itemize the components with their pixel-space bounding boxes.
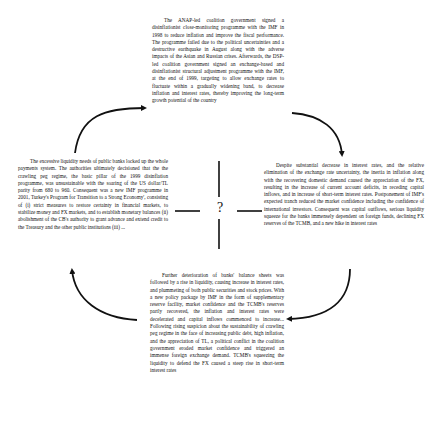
text-block-bottom-paragraph: Further deterioration of banks' balance … bbox=[150, 272, 284, 374]
arrow-top-to-right bbox=[292, 113, 342, 155]
text-block-top: The ANAP-led coalition government signed… bbox=[152, 17, 284, 105]
arrow-left-to-top bbox=[75, 108, 145, 153]
arrow-right-to-bottom bbox=[288, 269, 350, 319]
text-block-right: Despite substantial decrease in interest… bbox=[264, 162, 424, 228]
text-block-top-paragraph: The ANAP-led coalition government signed… bbox=[152, 17, 284, 105]
text-block-left: The excessive liquidity needs of public … bbox=[18, 158, 168, 231]
center-question-mark: ? bbox=[214, 200, 226, 216]
text-block-bottom: Further deterioration of banks' balance … bbox=[150, 272, 284, 374]
text-block-right-paragraph: Despite substantial decrease in interest… bbox=[264, 162, 424, 228]
text-block-left-paragraph: The excessive liquidity needs of public … bbox=[18, 158, 168, 231]
arrow-bottom-to-left bbox=[72, 270, 137, 320]
